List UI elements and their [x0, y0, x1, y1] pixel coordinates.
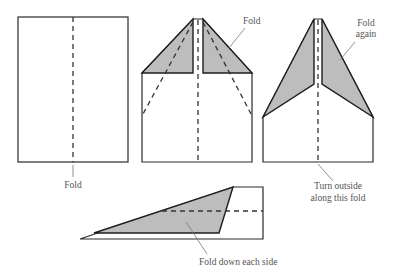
step-3-turn-label-line-1: Turn outside — [314, 181, 362, 191]
left-folded-flap — [142, 19, 193, 73]
step-4-fold-label: Fold down each side — [199, 257, 277, 267]
step-3-fold-label-line-1: Fold — [357, 18, 375, 28]
step-4-sheet: Fold down each side — [80, 187, 277, 267]
turn-outside-leader-line — [318, 164, 333, 181]
step-3-turn-label-line-2: along this fold — [311, 193, 366, 203]
right-folded-flap — [203, 19, 252, 73]
step-1-fold-label: Fold — [64, 180, 82, 190]
step-2-sheet: Fold — [142, 16, 261, 162]
fold-leader-line — [229, 28, 245, 48]
folding-diagram: Fold Fold Fold again Turn outside along … — [0, 0, 395, 278]
fold-again-leader-line — [340, 42, 355, 60]
step-2-fold-label: Fold — [243, 16, 261, 26]
step-3-sheet: Fold again Turn outside along this fold — [263, 18, 377, 203]
step-3-fold-label-line-2: again — [356, 29, 377, 39]
wing-fold-flap — [94, 187, 233, 233]
step-1-sheet: Fold — [18, 17, 128, 190]
